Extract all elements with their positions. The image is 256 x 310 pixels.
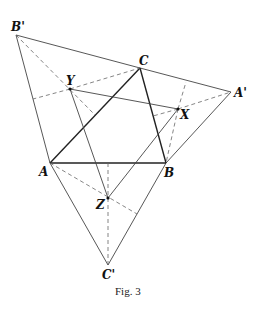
- label-c: C: [139, 54, 149, 68]
- figure-caption: Fig. 3: [115, 285, 141, 297]
- geometry-figure: B' C A' Y X A B Z C' Fig. 3: [0, 0, 256, 310]
- side-ca: [50, 68, 140, 163]
- dash-x-foot-caprime: [178, 82, 186, 109]
- label-b: B: [163, 166, 174, 180]
- point-z: [106, 196, 109, 199]
- label-cprime: C': [102, 268, 115, 282]
- label-z: Z: [95, 198, 106, 212]
- line-z-y: [70, 89, 108, 198]
- label-aprime: A': [233, 86, 247, 100]
- line-c-aprime: [140, 68, 231, 92]
- label-x: X: [179, 108, 190, 122]
- line-bprime-c: [16, 35, 140, 68]
- line-cprime-a: [50, 163, 108, 265]
- dash-y-foot-abprime: [33, 89, 70, 99]
- dash-x-mid-bc: [153, 109, 178, 116]
- side-bc: [140, 68, 166, 163]
- line-x-z: [108, 109, 178, 198]
- dash-bprime-y-mid-ac: [16, 35, 95, 115]
- label-a: A: [38, 165, 48, 179]
- dash-a-z-foot-bcprime: [50, 163, 137, 214]
- label-bprime: B': [10, 20, 25, 34]
- label-y: Y: [66, 74, 76, 88]
